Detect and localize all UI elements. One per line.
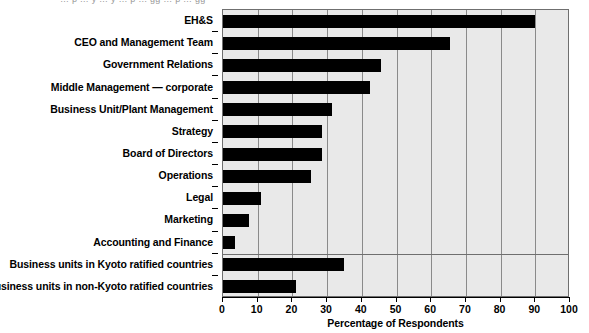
- x-axis-tick: [396, 297, 397, 302]
- x-axis-tick: [291, 297, 292, 302]
- group-separator: [223, 254, 568, 255]
- x-axis-tick-label: 20: [286, 303, 298, 315]
- category-label-row: CEO and Management Team: [74, 31, 213, 53]
- y-axis-tick: [212, 53, 218, 54]
- bar: [223, 103, 332, 116]
- x-axis-tick: [534, 297, 535, 302]
- cropped-text-remnant: … p … y … y … p … gg … p … gg: [0, 0, 589, 9]
- category-label-row: Business units in Kyoto ratified countri…: [10, 253, 214, 275]
- category-label: Legal: [186, 191, 213, 203]
- x-axis-tick-label: 50: [390, 303, 402, 315]
- y-axis-tick: [212, 186, 218, 187]
- value-axis: Percentage of Respondents 01020304050607…: [222, 297, 569, 333]
- category-label-row: Accounting and Finance: [93, 231, 213, 253]
- x-axis-tick: [326, 297, 327, 302]
- category-label-row: Marketing: [164, 208, 213, 230]
- bar: [223, 280, 296, 293]
- x-axis-tick: [257, 297, 258, 302]
- x-axis-tick: [569, 297, 570, 302]
- x-axis-tick-label: 80: [494, 303, 506, 315]
- category-label-row: EH&S: [184, 9, 213, 31]
- category-label: Board of Directors: [123, 147, 213, 159]
- x-axis-tick-label: 10: [251, 303, 263, 315]
- category-label-row: Operations: [159, 164, 213, 186]
- x-axis-tick-label: 40: [355, 303, 367, 315]
- category-axis-labels: EH&SCEO and Management TeamGovernment Re…: [0, 9, 218, 297]
- y-axis-tick: [212, 75, 218, 76]
- bar: [223, 59, 381, 72]
- category-label: Middle Management — corporate: [51, 81, 213, 93]
- bar: [223, 148, 322, 161]
- category-label-row: Government Relations: [103, 53, 213, 75]
- y-axis-tick: [212, 120, 218, 121]
- category-label: Business units in Kyoto ratified countri…: [10, 258, 214, 270]
- y-axis-tick: [212, 31, 218, 32]
- category-label: Accounting and Finance: [93, 236, 213, 248]
- x-axis-tick: [465, 297, 466, 302]
- bar: [223, 125, 322, 138]
- y-axis-tick: [212, 253, 218, 254]
- category-label: Government Relations: [103, 58, 213, 70]
- x-axis-tick-label: 100: [560, 303, 578, 315]
- category-label-row: Middle Management — corporate: [51, 75, 213, 97]
- bar: [223, 258, 344, 271]
- bar-chart: EH&SCEO and Management TeamGovernment Re…: [0, 9, 589, 333]
- x-axis-title: Percentage of Respondents: [222, 317, 569, 329]
- category-label-row: Strategy: [172, 120, 213, 142]
- category-label: Operations: [159, 169, 213, 181]
- x-axis-tick: [361, 297, 362, 302]
- category-label-row: Board of Directors: [123, 142, 213, 164]
- x-axis-tick: [500, 297, 501, 302]
- category-label: Business units in non-Kyoto ratified cou…: [0, 280, 213, 292]
- category-label: CEO and Management Team: [74, 36, 213, 48]
- x-axis-tick-label: 30: [320, 303, 332, 315]
- x-axis-tick: [430, 297, 431, 302]
- x-axis-tick: [222, 297, 223, 302]
- category-label: EH&S: [184, 14, 213, 26]
- chart-screenshot: … p … y … y … p … gg … p … gg EH&SCEO an…: [0, 0, 589, 333]
- category-label: Business Unit/Plant Management: [50, 103, 213, 115]
- bar: [223, 15, 535, 28]
- bar: [223, 192, 261, 205]
- x-axis-tick-label: 0: [219, 303, 225, 315]
- cropped-text: … p … y … y … p … gg … p … gg: [60, 0, 205, 4]
- bar: [223, 236, 235, 249]
- category-label: Strategy: [172, 125, 213, 137]
- bar: [223, 214, 249, 227]
- x-axis-tick-label: 90: [528, 303, 540, 315]
- y-axis-tick: [212, 208, 218, 209]
- category-label-row: Business Unit/Plant Management: [50, 98, 213, 120]
- bar: [223, 81, 370, 94]
- y-axis-tick: [212, 142, 218, 143]
- category-label-row: Business units in non-Kyoto ratified cou…: [0, 275, 213, 297]
- bar: [223, 170, 311, 183]
- y-axis-tick: [212, 275, 218, 276]
- plot-area: [222, 9, 569, 297]
- x-axis-tick-label: 70: [459, 303, 471, 315]
- x-axis-tick-label: 60: [424, 303, 436, 315]
- y-axis-tick: [212, 231, 218, 232]
- y-axis-tick: [212, 98, 218, 99]
- category-label: Marketing: [164, 213, 213, 225]
- bar: [223, 37, 450, 50]
- category-label-row: Legal: [186, 186, 213, 208]
- y-axis-tick: [212, 164, 218, 165]
